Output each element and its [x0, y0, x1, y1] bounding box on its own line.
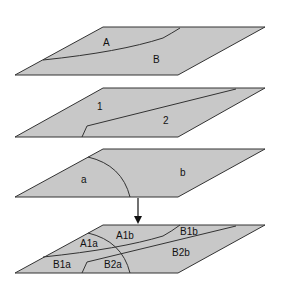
label-b: b [180, 167, 186, 178]
down-arrow-icon [134, 198, 142, 224]
label-a: a [81, 174, 87, 185]
label-B2a: B2a [104, 259, 122, 270]
layer-3: a b [15, 149, 265, 197]
label-A1b: A1b [116, 230, 134, 241]
diagram-canvas: A B 1 2 a b A1a A1b B1b B1a B2a B2b [0, 0, 282, 288]
label-1: 1 [97, 101, 103, 112]
label-B1a: B1a [53, 259, 71, 270]
layer-2: 1 2 [15, 88, 265, 137]
label-B2b: B2b [172, 247, 190, 258]
layer-1: A B [15, 27, 265, 75]
label-2: 2 [163, 115, 169, 126]
label-B: B [153, 54, 160, 65]
layer-overlay: A1a A1b B1b B1a B2a B2b [15, 225, 265, 273]
label-A1a: A1a [80, 238, 98, 249]
overlay-diagram: A B 1 2 a b A1a A1b B1b B1a B2a B2b [0, 0, 282, 288]
label-A: A [103, 37, 110, 48]
label-B1b: B1b [180, 226, 198, 237]
